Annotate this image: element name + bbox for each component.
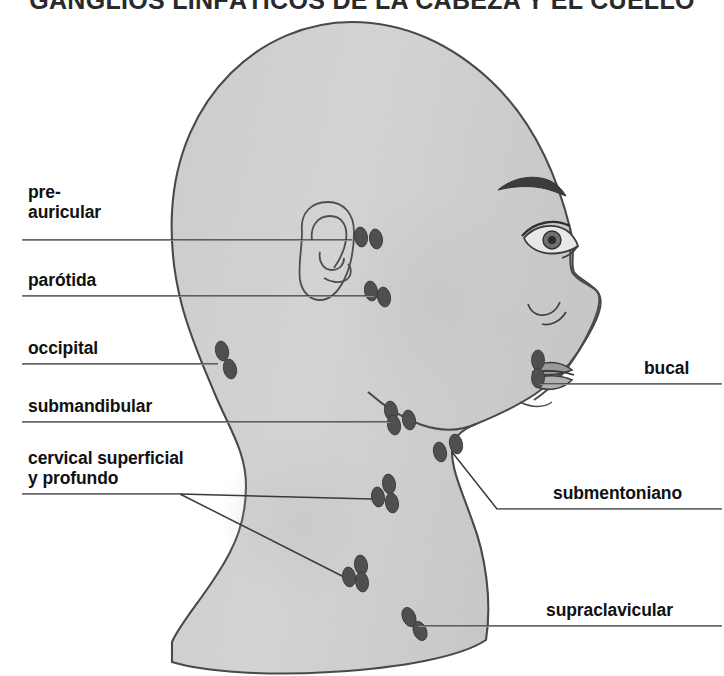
rule-pre-auricular: [22, 240, 352, 241]
rule-submandibular: [22, 422, 390, 423]
rule-bucal: [540, 384, 722, 385]
label-pre-auricular: pre- auricular: [28, 182, 101, 222]
head-neck-illustration: [0, 0, 724, 676]
label-cervical: cervical superficial y profundo: [28, 448, 184, 488]
diagram-canvas: GANGLIOS LINFÁTICOS DE LA CABEZA Y EL CU…: [0, 0, 724, 676]
rule-supraclavicular: [418, 626, 722, 627]
chin-crease: [520, 402, 552, 407]
label-parotida: parótida: [28, 270, 96, 290]
label-occipital: occipital: [28, 338, 98, 358]
rule-parotida: [22, 296, 374, 297]
rule-cervical: [22, 494, 180, 495]
label-submandibular: submandibular: [28, 396, 152, 416]
rule-occipital: [22, 364, 218, 365]
rule-submentoniano: [497, 509, 722, 510]
label-bucal: bucal: [644, 358, 689, 378]
cheek-shading: [335, 190, 525, 410]
label-supraclavicular: supraclavicular: [546, 600, 673, 620]
label-submentoniano: submentoniano: [553, 483, 682, 503]
